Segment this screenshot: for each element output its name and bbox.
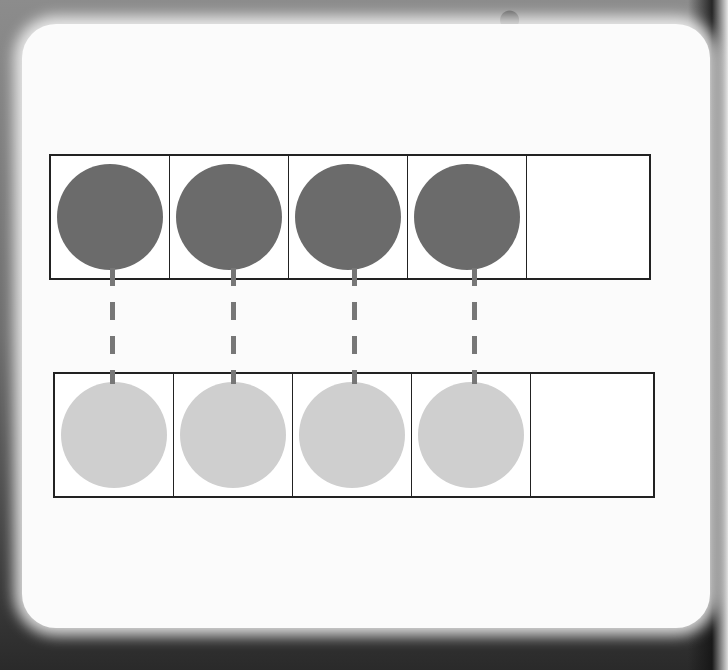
top-frame-cell — [170, 156, 289, 278]
content-card — [22, 24, 710, 628]
top-frame-cell — [408, 156, 527, 278]
top-frame-cell — [51, 156, 170, 278]
dashed-match-line — [472, 268, 477, 384]
dashed-match-line — [352, 268, 357, 384]
dashed-match-line — [231, 268, 236, 384]
bottom-frame-cell — [55, 374, 174, 496]
bottom-frame-counter — [180, 382, 286, 488]
top-frame-counter — [414, 164, 520, 270]
top-frame-counter — [57, 164, 163, 270]
bottom-frame-counter — [61, 382, 167, 488]
bottom-frame-cell — [174, 374, 293, 496]
bottom-frame-cell — [531, 374, 650, 496]
bottom-frame-cell — [412, 374, 531, 496]
bottom-five-frame — [53, 372, 655, 498]
dashed-match-line — [110, 268, 115, 384]
bottom-frame-counter — [299, 382, 405, 488]
top-five-frame — [49, 154, 651, 280]
top-frame-counter — [295, 164, 401, 270]
top-frame-cell — [289, 156, 408, 278]
bottom-frame-counter — [418, 382, 524, 488]
top-frame-counter — [176, 164, 282, 270]
top-frame-cell — [527, 156, 646, 278]
bottom-frame-cell — [293, 374, 412, 496]
